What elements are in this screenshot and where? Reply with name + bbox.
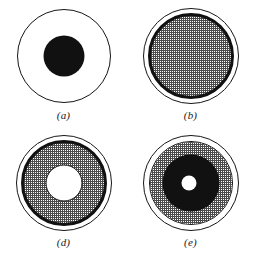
panel-a-core-solid-disc [43,36,84,77]
figure-canvas: (a) (b) (d) (e) [0,0,254,254]
panel-e: (e) [127,127,254,254]
panel-e-diagram [127,127,254,239]
panel-a-label: (a) [0,109,127,121]
panel-d-core-white-disc [45,165,82,202]
panel-a: (a) [0,0,127,127]
panel-d-label: (d) [0,236,127,248]
panel-b-diagram [127,0,254,112]
panel-e-label: (e) [127,236,254,248]
panel-b: (b) [127,0,254,127]
panel-a-diagram [0,0,127,112]
panel-d-diagram [0,127,127,239]
panel-e-center-white-dot [181,176,196,191]
panel-b-stipple-disc [151,16,231,96]
panel-b-label: (b) [127,109,254,121]
panel-d: (d) [0,127,127,254]
